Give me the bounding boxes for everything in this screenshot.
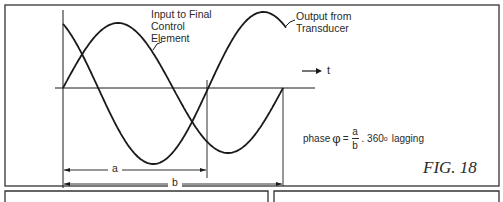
formula-suffix: lagging [392,133,424,144]
input-label-line-2: Control [151,20,212,32]
output-curve-label: Output from Transducer [296,10,351,34]
lower-left-box [5,191,268,202]
dimension-b-label: b [168,176,182,188]
fraction-denominator: b [352,140,358,151]
formula-fraction: a b [352,126,359,151]
degree-symbol: o [384,135,388,142]
lower-right-box [274,191,499,202]
output-label-line-2: Transducer [296,22,351,34]
fraction-bar [352,138,359,139]
figure-caption: FIG. 18 [423,158,477,178]
output-label-line-1: Output from [296,10,351,22]
input-label-line-1: Input to Final [151,8,212,20]
formula-multiplier: . 360 [362,133,384,144]
dimension-a-label: a [108,162,122,174]
fraction-numerator: a [352,126,358,137]
input-label-line-3: Element [151,32,212,44]
dimension-a-right-arrow-icon [200,168,206,172]
formula-equals: = [343,133,349,144]
input-curve-label: Input to Final Control Element [151,8,212,44]
output-leader [285,20,295,27]
dimension-a-left-arrow-icon [64,168,70,172]
time-arrowhead-icon [316,68,322,74]
time-axis-label: t [327,64,330,76]
phi-symbol: φ [332,131,340,146]
phase-formula: phase φ = a b . 360o lagging [303,126,424,151]
formula-prefix: phase [303,133,330,144]
